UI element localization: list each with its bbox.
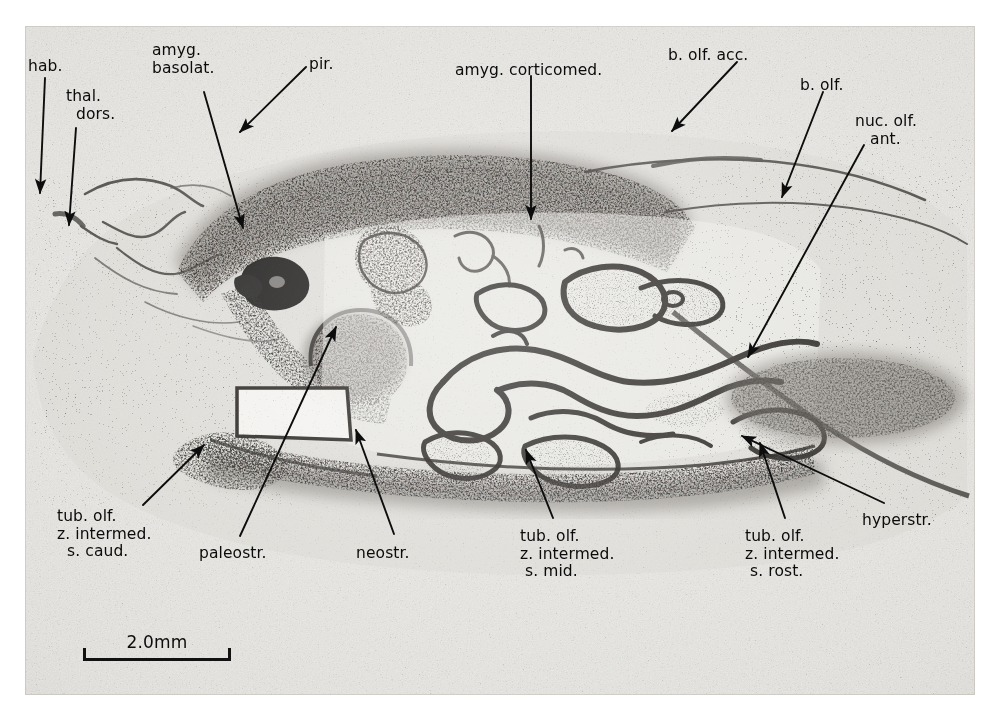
label-tub-olf-s-rost-line-1: z. intermed.: [745, 546, 839, 564]
label-neostr-line-0: neostr.: [356, 545, 410, 563]
label-nuc-olf-ant-line-0: nuc. olf.: [855, 113, 917, 131]
label-hyperstr-line-0: hyperstr.: [862, 512, 932, 530]
label-tub-olf-s-mid-line-0: tub. olf.: [520, 528, 614, 546]
label-tub-olf-s-mid: tub. olf.z. intermed. s. mid.: [520, 528, 614, 581]
label-paleostr-line-0: paleostr.: [199, 545, 267, 563]
label-hyperstr: hyperstr.: [862, 512, 932, 530]
label-thal-dors-line-1: dors.: [66, 106, 115, 124]
label-tub-olf-s-caud-line-2: s. caud.: [57, 543, 151, 561]
label-tub-olf-s-caud-line-0: tub. olf.: [57, 508, 151, 526]
label-b-olf-line-0: b. olf.: [800, 77, 843, 95]
photomicrograph-plate: [25, 26, 975, 695]
label-tub-olf-s-caud-line-1: z. intermed.: [57, 526, 151, 544]
figure-plate-container: hab.thal. dors.amyg.basolat.pir.amyg. co…: [0, 0, 992, 720]
label-amyg-basolat: amyg.basolat.: [152, 42, 215, 77]
label-hab-line-0: hab.: [28, 58, 63, 76]
scale-bar-tick-right: [228, 648, 231, 661]
label-amyg-basolat-line-0: amyg.: [152, 42, 215, 60]
label-amyg-basolat-line-1: basolat.: [152, 60, 215, 78]
scale-bar-line: [83, 658, 231, 661]
label-b-olf: b. olf.: [800, 77, 843, 95]
label-tub-olf-s-rost-line-0: tub. olf.: [745, 528, 839, 546]
label-amyg-corticomed-line-0: amyg. corticomed.: [455, 62, 602, 80]
label-nuc-olf-ant-line-1: ant.: [855, 131, 917, 149]
label-hab: hab.: [28, 58, 63, 76]
label-tub-olf-s-caud: tub. olf.z. intermed. s. caud.: [57, 508, 151, 561]
label-tub-olf-s-mid-line-2: s. mid.: [520, 563, 614, 581]
label-thal-dors-line-0: thal.: [66, 88, 115, 106]
label-paleostr: paleostr.: [199, 545, 267, 563]
scale-bar-label: 2.0mm: [83, 632, 231, 652]
label-thal-dors: thal. dors.: [66, 88, 115, 123]
label-pir: pir.: [309, 56, 333, 74]
label-b-olf-acc: b. olf. acc.: [668, 47, 748, 65]
label-amyg-corticomed: amyg. corticomed.: [455, 62, 602, 80]
label-b-olf-acc-line-0: b. olf. acc.: [668, 47, 748, 65]
label-neostr: neostr.: [356, 545, 410, 563]
label-tub-olf-s-rost: tub. olf.z. intermed. s. rost.: [745, 528, 839, 581]
label-nuc-olf-ant: nuc. olf. ant.: [855, 113, 917, 148]
label-tub-olf-s-mid-line-1: z. intermed.: [520, 546, 614, 564]
label-pir-line-0: pir.: [309, 56, 333, 74]
brain-section-tissue: [25, 26, 975, 695]
label-tub-olf-s-rost-line-2: s. rost.: [745, 563, 839, 581]
